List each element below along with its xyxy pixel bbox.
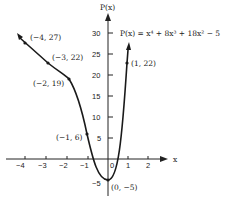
equation-label: P(x) = x⁴ + 8x³ + 18x² − 5: [120, 29, 220, 38]
point-label: (−2, 19): [33, 79, 64, 88]
x-tick-label: −4: [16, 161, 25, 170]
x-tick-label: −2: [59, 161, 68, 170]
point-label: (−1, 6): [56, 133, 83, 142]
x-tick-label: −1: [80, 161, 89, 170]
point-label: (0, −5): [111, 183, 138, 192]
point-label: (−3, 22): [52, 53, 83, 62]
point-label: (−4, 27): [30, 33, 61, 42]
y-tick-label: 15: [92, 92, 100, 101]
data-point: [23, 41, 26, 44]
y-axis-label: P(x): [100, 3, 115, 12]
y-axis-arrow-icon: [105, 13, 111, 21]
origin-label: 0: [110, 161, 114, 170]
y-tick-label: 30: [92, 29, 100, 38]
x-tick-label: 1: [126, 161, 130, 170]
curve-arrow-icon: [126, 42, 131, 50]
y-tick-label: 5: [97, 134, 101, 143]
polynomial-graph: x P(x) −4 −3 −2 −1 0 1 2 30 25 20 15 10 …: [0, 0, 230, 199]
y-tick-label: 20: [92, 71, 100, 80]
data-point: [125, 61, 128, 64]
y-tick-label: 25: [92, 50, 100, 59]
data-point: [106, 178, 109, 181]
x-axis-label: x: [173, 155, 178, 164]
x-axis-arrow-icon: [160, 156, 168, 162]
y-tick-label: 10: [92, 113, 100, 122]
y-tick-label: −5: [92, 179, 101, 188]
x-tick-label: 2: [146, 161, 150, 170]
x-tick-label: −3: [38, 161, 47, 170]
data-point: [67, 77, 70, 80]
y-ticks: [108, 33, 113, 138]
data-point: [85, 132, 88, 135]
point-label: (1, 22): [131, 59, 156, 68]
data-point: [46, 61, 49, 64]
